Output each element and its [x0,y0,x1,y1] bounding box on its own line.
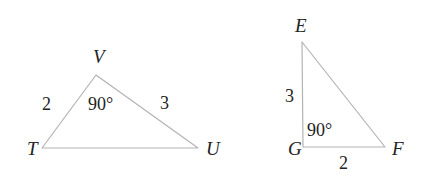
side-length-GF: 2 [339,154,348,172]
vertex-label-F: F [392,139,404,158]
vertex-label-E: E [295,16,307,35]
triangle-TVU-outline [42,75,198,148]
vertex-label-T: T [27,139,38,158]
side-length-VU: 3 [160,94,169,112]
vertex-label-U: U [206,139,220,158]
side-length-EG: 3 [285,87,294,105]
angle-label-V: 90° [88,95,113,113]
geometry-figure: T V U 2 3 90° E G F 3 2 90° [0,0,434,179]
vertex-label-V: V [93,47,105,66]
angle-label-G: 90° [307,121,332,139]
side-length-TV: 2 [42,95,51,113]
vertex-label-G: G [288,139,302,158]
